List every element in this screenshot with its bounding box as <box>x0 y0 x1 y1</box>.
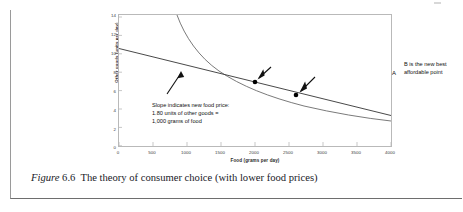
y-axis-ticks <box>119 17 122 146</box>
x-tick-4000: 4000 <box>385 150 395 155</box>
annotation-point-b-note: B is the new best affordable point <box>404 60 447 77</box>
x-tick-1000: 1000 <box>181 150 191 155</box>
annotation-slope-line-3: 1,000 grams of food <box>152 117 229 125</box>
x-tick-3500: 3500 <box>351 150 361 155</box>
annotation-slope-line-2: 1.80 units of other goods = <box>152 109 229 117</box>
y-tick-10: 10 <box>102 51 116 56</box>
annotation-b-line-2: affordable point <box>404 68 447 76</box>
caption-figure-number: 6.6 <box>62 172 75 183</box>
y-tick-2: 2 <box>102 127 116 132</box>
x-tick-2500: 2500 <box>283 150 293 155</box>
arrow-point-a <box>258 67 272 80</box>
chart-figure: Other goods (units per day) 14 12 10 8 6… <box>96 12 406 164</box>
label-point-a: A <box>392 70 396 76</box>
caption-figure-word: Figure <box>31 172 59 183</box>
marker-point-b <box>294 93 299 98</box>
x-tick-1500: 1500 <box>215 150 225 155</box>
arrow-slope-note <box>167 71 184 94</box>
x-axis-title: Food (grams per day) <box>118 158 392 163</box>
annotation-slope-note: Slope indicates new food price: 1.80 uni… <box>152 101 229 126</box>
x-tick-500: 500 <box>148 150 155 155</box>
caption-text: The theory of consumer choice (with lowe… <box>80 172 317 183</box>
y-tick-8: 8 <box>102 70 116 75</box>
arrow-point-b <box>300 77 316 93</box>
y-tick-14: 14 <box>102 13 116 18</box>
x-axis-tick-labels: 0 500 1000 1500 2000 2500 3000 3500 4000 <box>118 150 392 158</box>
y-tick-6: 6 <box>102 89 116 94</box>
annotation-b-line-1: B is the new best <box>404 60 447 68</box>
x-tick-0: 0 <box>117 150 119 155</box>
plot-area: Slope indicates new food price: 1.80 uni… <box>118 14 392 147</box>
x-axis-ticks <box>119 142 391 146</box>
x-tick-3000: 3000 <box>317 150 327 155</box>
y-tick-0: 0 <box>102 145 116 150</box>
y-tick-4: 4 <box>102 108 116 113</box>
x-tick-2000: 2000 <box>249 150 259 155</box>
y-axis-tick-labels: 14 12 10 8 6 4 2 0 <box>96 12 116 149</box>
marker-point-a <box>253 80 258 85</box>
page-speck <box>434 2 441 4</box>
plot-graphics <box>119 15 391 146</box>
annotation-slope-line-1: Slope indicates new food price: <box>152 101 229 109</box>
figure-caption: Figure 6.6 The theory of consumer choice… <box>31 172 318 183</box>
y-tick-12: 12 <box>102 32 116 37</box>
